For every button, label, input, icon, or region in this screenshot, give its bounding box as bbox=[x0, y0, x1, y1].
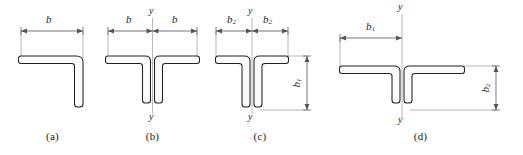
figure-d: b1 y y b2 (d) bbox=[318, 0, 523, 155]
angle-section-right-outline bbox=[155, 56, 200, 103]
figure-a: b (a) bbox=[0, 0, 105, 155]
figure-b-width-left-label: b bbox=[126, 14, 132, 26]
figure-d-drawing bbox=[318, 0, 523, 130]
figure-b: b b y y (b) bbox=[100, 0, 205, 155]
dimension-line-b2-right bbox=[252, 27, 288, 56]
figure-c-width-right-label: b2 bbox=[263, 14, 272, 26]
figure-b-caption: (b) bbox=[100, 130, 205, 142]
figure-b-axis-label-bottom: y bbox=[149, 112, 153, 122]
angle-section-right-outline bbox=[404, 66, 465, 103]
figure-d-height-label: b2 bbox=[480, 84, 492, 93]
figure-d-width-label: b1 bbox=[366, 21, 375, 33]
angle-section-left-outline bbox=[216, 56, 251, 107]
figure-d-axis-label-bottom: y bbox=[398, 115, 402, 125]
figure-c: b2 b2 y y b1 (c) bbox=[200, 0, 320, 155]
angle-section-left-outline bbox=[106, 56, 151, 103]
dimension-line-b-left bbox=[108, 27, 153, 56]
figure-a-caption: (a) bbox=[0, 130, 105, 142]
dimension-line-b2-left bbox=[216, 27, 252, 56]
figure-a-drawing bbox=[0, 0, 105, 130]
figure-d-axis-label-top: y bbox=[398, 2, 402, 12]
figure-c-axis-label-bottom: y bbox=[248, 112, 252, 122]
dimension-line-b1-horizontal bbox=[340, 34, 402, 66]
figure-b-width-right-label: b bbox=[172, 14, 178, 26]
figure-a-width-label: b bbox=[46, 14, 52, 26]
angle-section-outline bbox=[19, 56, 84, 107]
dimension-line-b bbox=[21, 27, 83, 58]
figure-c-drawing bbox=[200, 0, 320, 130]
angle-section-right-outline bbox=[254, 56, 289, 107]
figure-b-axis-label-top: y bbox=[149, 6, 153, 16]
figure-c-caption: (c) bbox=[200, 130, 320, 142]
dimension-line-b-right bbox=[153, 27, 198, 56]
figure-d-caption: (d) bbox=[318, 130, 523, 142]
figure-c-width-left-label: b2 bbox=[227, 14, 236, 26]
angle-section-left-outline bbox=[340, 66, 401, 103]
figure-c-height-label: b1 bbox=[291, 79, 303, 88]
figure-c-axis-label-top: y bbox=[248, 6, 252, 16]
